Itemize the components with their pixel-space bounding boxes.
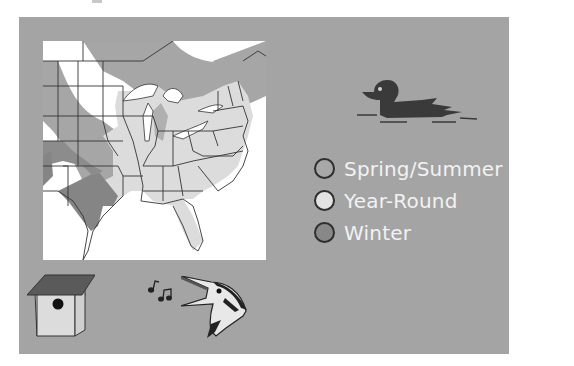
legend-label: Winter: [344, 221, 411, 245]
map-graphic: [43, 41, 266, 260]
range-map-panel: Spring/Summer Year-Round Winter: [19, 17, 509, 354]
top-artifact: [92, 0, 102, 3]
birdhouse-icon: [25, 273, 95, 338]
range-legend: Spring/Summer Year-Round Winter: [314, 150, 503, 246]
duck-icon: [352, 80, 482, 130]
range-map: [43, 41, 266, 260]
music-notes-icon: [148, 278, 178, 304]
legend-swatch-spring-summer: [314, 158, 335, 179]
legend-label: Spring/Summer: [344, 157, 503, 181]
singing-bird-icon: [181, 276, 256, 341]
legend-swatch-winter: [314, 222, 335, 243]
legend-label: Year-Round: [344, 189, 458, 213]
legend-item-winter: Winter: [314, 214, 503, 251]
legend-swatch-year-round: [314, 190, 335, 211]
